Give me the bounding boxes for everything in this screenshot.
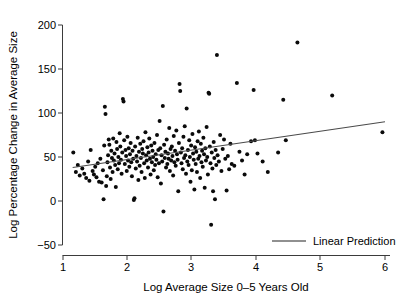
- x-tick-label: 5: [317, 261, 323, 273]
- scatter-point: [104, 184, 108, 188]
- scatter-point: [147, 137, 151, 141]
- scatter-point: [136, 178, 140, 182]
- scatter-point: [243, 173, 247, 177]
- scatter-point: [176, 158, 180, 162]
- scatter-point: [122, 100, 126, 104]
- scatter-point: [102, 197, 106, 201]
- scatter-point: [276, 151, 280, 155]
- scatter-point: [216, 153, 220, 157]
- scatter-point: [330, 93, 334, 97]
- scatter-point: [133, 144, 137, 148]
- scatter-point: [108, 166, 112, 170]
- x-tick-label: 4: [253, 261, 259, 273]
- scatter-point: [165, 162, 169, 166]
- scatter-point: [87, 179, 91, 183]
- scatter-point: [109, 149, 113, 153]
- scatter-point: [162, 143, 166, 147]
- scatter-point: [142, 139, 146, 143]
- scatter-point: [194, 162, 198, 166]
- scatter-point: [156, 175, 160, 179]
- scatter-point: [100, 181, 104, 185]
- scatter-point: [200, 149, 204, 153]
- scatter-point: [154, 158, 158, 162]
- scatter-point: [192, 158, 196, 162]
- y-tick-label: 0: [50, 195, 56, 207]
- scatter-point: [111, 137, 115, 141]
- scatter-point: [158, 119, 162, 123]
- scatter-point: [124, 154, 128, 158]
- scatter-point: [180, 146, 184, 150]
- scatter-point: [74, 170, 78, 174]
- y-tick-labels: 200 150 100 50 0 −50: [37, 19, 56, 251]
- scatter-point: [145, 145, 149, 149]
- scatter-point: [210, 166, 214, 170]
- scatter-point: [245, 152, 249, 156]
- scatter-point: [218, 133, 222, 137]
- scatter-point: [212, 156, 216, 160]
- scatter-point: [181, 167, 185, 171]
- scatter-point: [171, 173, 175, 177]
- scatter-point: [192, 188, 196, 192]
- chart-canvas: Log Percentage Change in Average Size 20…: [0, 0, 418, 307]
- scatter-point: [217, 159, 221, 163]
- y-tick-label: 150: [38, 63, 56, 75]
- scatter-point: [212, 140, 216, 144]
- y-tick-label: 100: [38, 107, 56, 119]
- scatter-point: [205, 125, 209, 129]
- scatter-point: [125, 169, 129, 173]
- scatter-point: [158, 146, 162, 150]
- scatter-point: [197, 129, 201, 133]
- scatter-point: [219, 169, 223, 173]
- scatter-point: [80, 166, 84, 170]
- scatter-point: [123, 162, 127, 166]
- scatter-point: [137, 150, 141, 154]
- scatter-point: [226, 154, 230, 158]
- scatter-point: [380, 130, 384, 134]
- scatter-point: [140, 170, 144, 174]
- scatter-point: [94, 175, 98, 179]
- scatter-point: [189, 180, 193, 184]
- scatter-point: [161, 210, 165, 214]
- scatter-point: [172, 134, 176, 138]
- scatter-point: [281, 98, 285, 102]
- scatter-point: [106, 153, 110, 157]
- scatter-point: [111, 170, 115, 174]
- scatter-point: [199, 142, 203, 146]
- scatter-point: [127, 165, 131, 169]
- scatter-point: [114, 185, 118, 189]
- x-tick-label: 3: [188, 261, 194, 273]
- scatter-point: [129, 160, 133, 164]
- x-axis-title: Log Average Size 0–5 Years Old: [143, 281, 308, 293]
- scatter-point: [187, 163, 191, 167]
- scatter-point: [105, 174, 109, 178]
- scatter-point: [163, 156, 167, 160]
- scatter-point: [208, 161, 212, 165]
- scatter-point: [202, 152, 206, 156]
- scatter-point: [115, 147, 119, 151]
- scatter-point: [193, 145, 197, 149]
- scatter-point: [114, 140, 118, 144]
- scatter-point: [237, 150, 241, 154]
- scatter-point: [147, 151, 151, 155]
- scatter-point: [206, 173, 210, 177]
- scatter-point: [104, 112, 108, 116]
- scatter-point: [125, 135, 129, 139]
- scatter-point: [131, 149, 135, 153]
- scatter-point: [153, 163, 157, 167]
- scatter-point: [107, 143, 111, 147]
- scatter-point: [201, 136, 205, 140]
- scatter-point: [152, 168, 156, 172]
- scatter-point: [78, 173, 82, 177]
- scatter-point: [155, 133, 159, 137]
- scatter-point: [170, 154, 174, 158]
- scatter-point: [113, 163, 117, 167]
- scatter-point: [118, 131, 122, 135]
- x-axis: [63, 256, 391, 261]
- x-tick-labels: 1 2 3 4 5 6: [60, 261, 388, 273]
- scatter-point: [170, 144, 174, 148]
- scatter-point: [109, 177, 113, 181]
- scatter-point: [205, 155, 209, 159]
- scatter-point: [159, 181, 163, 185]
- scatter-point: [120, 151, 124, 155]
- scatter-point: [252, 88, 256, 92]
